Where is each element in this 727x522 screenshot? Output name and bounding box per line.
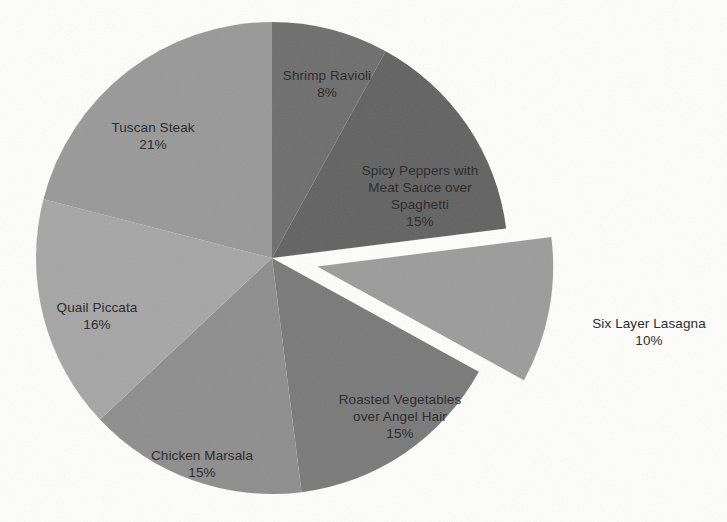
pie-chart-canvas xyxy=(0,0,727,522)
pie-slices-group xyxy=(36,22,553,494)
pie-chart-figure: Shrimp Ravioli 8% Spicy Peppers with Mea… xyxy=(0,0,727,522)
